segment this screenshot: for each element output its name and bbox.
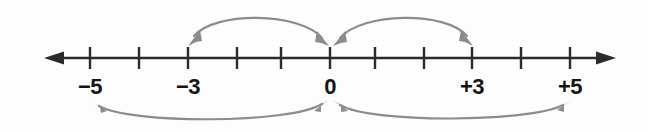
- axis-right-arrowhead-icon: [596, 52, 616, 65]
- tick-label-plus-5: +5: [558, 74, 582, 99]
- arc-top-right: [340, 18, 467, 38]
- jump-arcs-group: [92, 18, 572, 119]
- tick-label-minus-3: −3: [176, 74, 200, 99]
- arc-top-right-arrowhead-left-icon: [333, 31, 347, 46]
- tick-labels-group: −5 −3 0 +3 +5: [78, 74, 582, 99]
- number-line-figure: −5 −3 0 +3 +5: [0, 0, 648, 132]
- arc-bottom-left: [99, 104, 322, 119]
- arc-top-right-arrowhead-right-icon: [459, 30, 473, 46]
- number-line-diagram: −5 −3 0 +3 +5: [0, 0, 648, 132]
- arc-top-left-arrowhead-right-icon: [315, 31, 329, 46]
- tick-label-zero: 0: [324, 74, 336, 99]
- tick-label-plus-3: +3: [460, 74, 484, 99]
- arc-top-left: [194, 18, 322, 38]
- tick-label-minus-5: −5: [78, 74, 102, 99]
- axis-left-arrowhead-icon: [44, 52, 64, 65]
- arc-top-left-arrowhead-left-icon: [188, 30, 202, 46]
- arc-bottom-right: [340, 105, 563, 119]
